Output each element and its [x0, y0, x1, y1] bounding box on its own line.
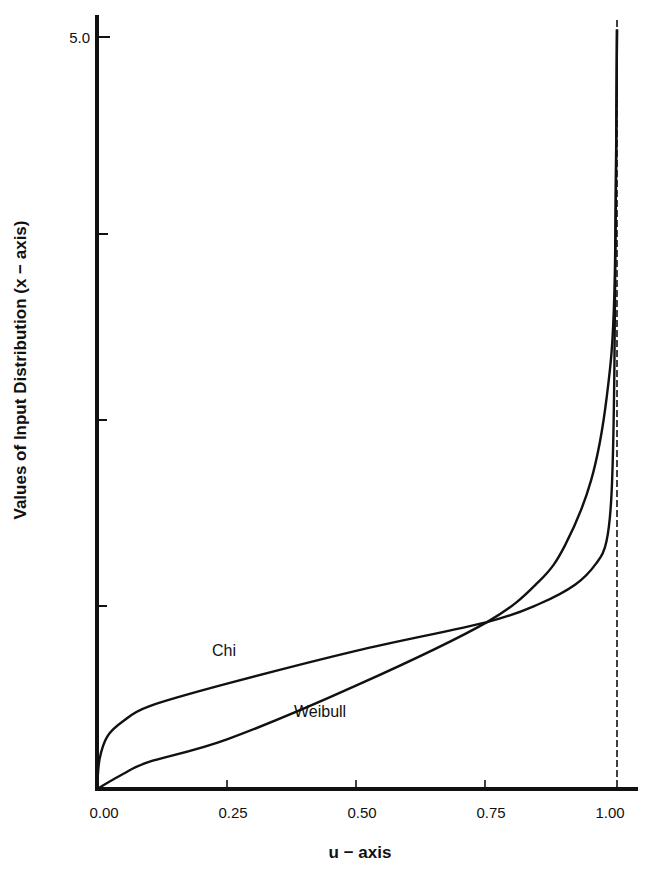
x-tick-label-0: 0.00 — [89, 804, 118, 821]
x-tick-label-4: 1.00 — [595, 804, 624, 821]
chi-curve — [97, 30, 617, 790]
chart: 5.0 0.00 0.25 0.50 0.75 1.00 Chi Weibull… — [0, 0, 655, 877]
weibull-label: Weibull — [294, 703, 346, 720]
y-tick-label-top: 5.0 — [69, 29, 90, 46]
x-tick-label-2: 0.50 — [347, 804, 376, 821]
y-axis-title: Values of Input Distribution (x − axis) — [11, 221, 30, 520]
chi-label: Chi — [212, 642, 236, 659]
x-tick-label-1: 0.25 — [218, 804, 247, 821]
x-tick-label-3: 0.75 — [476, 804, 505, 821]
weibull-curve — [97, 30, 617, 790]
x-axis-title: u − axis — [329, 843, 392, 862]
x-ticks — [227, 780, 485, 787]
